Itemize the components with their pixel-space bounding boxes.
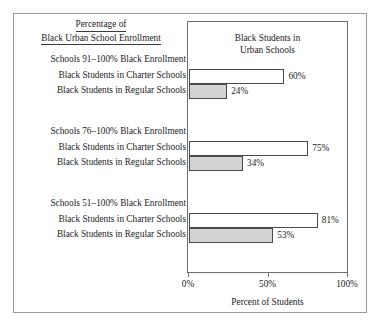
bar [189,156,243,171]
bar-value-label: 24% [231,84,248,99]
bar-label: Black Students in Charter Schools [14,70,186,81]
bar-label: Black Students in Regular Schools [14,85,186,96]
bar [189,228,273,243]
plot-area: Black Students in Urban Schools 60%24%75… [187,21,348,273]
bar-value-label: 53% [277,228,294,243]
bar [189,84,227,99]
bar [189,69,284,84]
chart-figure: Percentage of Black Urban School Enrollm… [13,13,367,313]
x-axis-tick [347,273,348,277]
bar-value-label: 34% [247,156,264,171]
x-axis-tick [268,273,269,277]
group-label: Schools 51–100% Black Enrollment [14,198,186,209]
x-axis-tick-label: 0% [182,279,194,290]
bar-value-label: 60% [288,69,305,84]
bar [189,141,308,156]
bar-value-label: 81% [322,213,339,228]
figure-title-line-1: Percentage of [14,18,188,32]
bar-value-label: 75% [312,141,329,156]
bar-label: Black Students in Regular Schools [14,157,186,168]
x-axis-tick-label: 100% [336,279,358,290]
bar-label: Black Students in Charter Schools [14,142,186,153]
bar-label: Black Students in Charter Schools [14,214,186,225]
x-axis-title: Percent of Students [187,297,348,307]
bar [189,213,318,228]
group-label: Schools 91–100% Black Enrollment [14,54,186,65]
x-axis-tick [188,273,189,277]
bar-label: Black Students in Regular Schools [14,229,186,240]
x-axis-tick-label: 50% [259,279,276,290]
bars-container: 60%24%75%34%81%53% [188,22,347,272]
figure-title: Percentage of Black Urban School Enrollm… [14,18,188,45]
group-label: Schools 76–100% Black Enrollment [14,126,186,137]
figure-title-line-2: Black Urban School Enrollment [14,32,188,46]
